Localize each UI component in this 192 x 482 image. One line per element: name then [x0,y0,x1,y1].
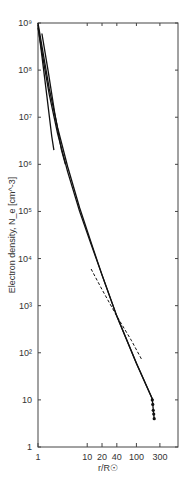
x-tick-label: 100 [129,452,144,462]
data-point [151,398,154,401]
y-tick-label: 10⁷ [19,112,32,122]
x-axis-ticks: 1102040100300 [35,23,167,462]
data-point [152,409,155,412]
y-tick-label: 10⁴ [18,254,32,264]
series-line [38,28,153,400]
y-axis-label: Electron density, N_e [cm^-3] [7,177,17,294]
x-axis-label: r/R☉ [98,463,118,473]
data-series [38,23,156,420]
chart-svg: 11010²10³10⁴10⁵10⁶10⁷10⁸10⁹ 110204010030… [0,0,192,482]
y-tick-label: 1 [27,442,32,452]
y-axis-ticks: 11010²10³10⁴10⁵10⁶10⁷10⁸10⁹ [18,18,178,452]
y-tick-label: 10³ [19,301,32,311]
x-tick-label: 300 [152,452,167,462]
y-tick-label: 10⁹ [18,18,32,28]
data-point [152,412,155,415]
series-line [38,25,54,150]
series-line [38,23,153,400]
y-tick-label: 10⁵ [18,206,32,216]
plot-frame [38,23,178,447]
y-tick-label: 10⁸ [18,65,32,75]
x-tick-label: 20 [97,452,107,462]
y-tick-label: 10⁶ [18,159,32,169]
data-point [151,403,154,406]
x-tick-label: 10 [82,452,92,462]
y-tick-label: 10² [19,348,32,358]
data-point [153,417,156,420]
x-tick-label: 1 [35,452,40,462]
x-tick-label: 40 [112,452,122,462]
y-tick-label: 10 [22,395,32,405]
